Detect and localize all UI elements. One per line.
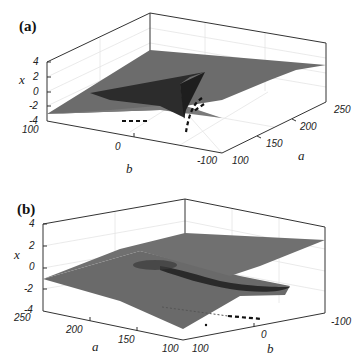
a-tick-250-b: 250 xyxy=(14,312,31,323)
a-tick-150-b: 150 xyxy=(118,334,135,345)
surface-plot-a xyxy=(0,0,364,181)
b-axis-label-b: b xyxy=(267,341,274,357)
cusp-point-b xyxy=(205,324,207,326)
panel-label-a: (a) xyxy=(19,18,37,35)
panel-label-b: (b) xyxy=(17,201,35,218)
b-tick-m100-a: -100 xyxy=(197,155,217,166)
z-tick-m2-a: -2 xyxy=(29,100,38,111)
b-tick-m100-b: -100 xyxy=(331,316,351,327)
b-axis-label-a: b xyxy=(126,161,133,177)
surface-plot-b xyxy=(0,181,364,362)
bifurcation-curve-b xyxy=(228,316,262,319)
z-tick-0-a: 0 xyxy=(33,86,39,97)
b-tick-0-a: 0 xyxy=(115,141,121,152)
z-tick-m2-b: -2 xyxy=(24,283,33,294)
a-tick-250-a: 250 xyxy=(334,104,351,115)
z-tick-0-b: 0 xyxy=(29,261,35,272)
a-tick-200-a: 200 xyxy=(300,121,317,132)
a-tick-150-a: 150 xyxy=(266,138,283,149)
z-tick-2-a: 2 xyxy=(33,71,39,82)
fold-shadow-b xyxy=(133,260,177,270)
a-tick-200-b: 200 xyxy=(66,324,83,335)
z-axis-label-b: x xyxy=(14,247,20,263)
b-tick-0-b: 0 xyxy=(261,329,267,340)
a-axis-label-a: a xyxy=(298,148,305,164)
a-axis-label-b: a xyxy=(92,339,99,355)
panel-b: (b) 4 2 0 -2 -4 x 250 200 150 100 a 100 … xyxy=(0,181,364,362)
b-tick-100-a: 100 xyxy=(22,124,39,135)
z-tick-4-b: 4 xyxy=(29,218,35,229)
z-tick-2-b: 2 xyxy=(29,240,35,251)
a-tick-100-a: 100 xyxy=(232,155,249,166)
a-tick-100-b: 100 xyxy=(162,343,179,354)
panel-a: (a) 4 2 0 -2 -4 x 100 0 -100 b 100 150 2… xyxy=(0,0,364,181)
z-axis-label-a: x xyxy=(19,72,25,88)
z-tick-4-a: 4 xyxy=(33,56,39,67)
b-tick-100-b: 100 xyxy=(192,343,209,354)
